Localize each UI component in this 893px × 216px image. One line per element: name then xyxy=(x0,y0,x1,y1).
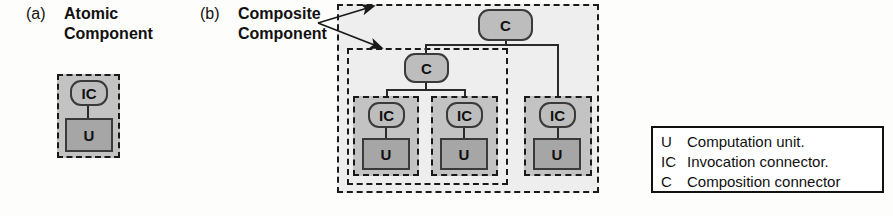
leaf-2-invocation-connector: IC xyxy=(446,102,483,128)
leaf-2-computation-unit: U xyxy=(440,138,488,170)
leaf-3-computation-unit: U xyxy=(533,138,581,170)
leaf-3-invocation-connector-label: IC xyxy=(550,107,565,124)
leaf-1-computation-unit: U xyxy=(362,138,410,170)
leaf-1-invocation-connector: IC xyxy=(368,102,405,128)
leaf-3-computation-unit-label: U xyxy=(552,146,563,163)
figure-caption-a: (a) Atomic Component xyxy=(26,4,44,99)
legend-box: U Computation unit. IC Invocation connec… xyxy=(651,126,884,193)
leaf-1-invocation-connector-label: IC xyxy=(379,107,394,124)
root-to-leaf3-wire xyxy=(557,44,559,102)
legend-key-ic: IC xyxy=(661,152,687,172)
figure-label-a-title-line2: Component xyxy=(64,24,153,43)
leaf-2-invocation-connector-label: IC xyxy=(457,107,472,124)
figure-caption-b: (b) Composite Component xyxy=(200,4,218,99)
figure-label-a-title-line1: Atomic xyxy=(64,4,118,23)
atomic-invocation-connector: IC xyxy=(70,80,108,106)
sub-connector-bus-wire xyxy=(386,89,466,91)
legend-row: C Composition connector xyxy=(661,172,882,192)
legend-text-u: Computation unit. xyxy=(687,132,805,152)
leaf-2-computation-unit-label: U xyxy=(459,146,470,163)
legend-row: IC Invocation connector. xyxy=(661,152,882,172)
legend-key-u: U xyxy=(661,132,687,152)
legend-text-ic: Invocation connector. xyxy=(687,152,829,172)
atomic-invocation-connector-label: IC xyxy=(82,85,97,102)
legend-row: U Computation unit. xyxy=(661,132,882,152)
figure-canvas: (a) Atomic Component (b) Composite Compo… xyxy=(0,0,893,216)
root-composition-connector-label: C xyxy=(500,17,511,34)
root-composition-connector: C xyxy=(478,9,533,41)
leaf-1-computation-unit-label: U xyxy=(381,146,392,163)
sub-composition-connector: C xyxy=(404,53,449,83)
figure-label-b-title-line1: Composite xyxy=(238,4,321,23)
leaf-3-invocation-connector: IC xyxy=(539,102,576,128)
legend-text-c: Composition connector xyxy=(687,172,840,192)
figure-label-b-index: (b) xyxy=(200,4,220,23)
root-connector-bus-wire xyxy=(425,44,559,46)
atomic-computation-unit: U xyxy=(65,118,113,152)
atomic-computation-unit-label: U xyxy=(84,127,95,144)
legend-key-c: C xyxy=(661,172,687,192)
sub-composition-connector-label: C xyxy=(421,60,432,77)
figure-label-b-title-line2: Component xyxy=(238,24,327,43)
figure-label-a-index: (a) xyxy=(26,4,46,23)
